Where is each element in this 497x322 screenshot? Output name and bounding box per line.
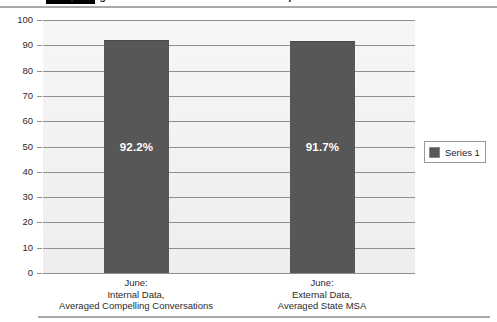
y-axis-tick-label: 80 xyxy=(5,66,33,76)
x-axis-category-line: External Data, xyxy=(229,289,415,301)
bar-value-label: 91.7% xyxy=(290,141,355,153)
y-axis-tick-mark xyxy=(37,20,42,21)
gridline xyxy=(43,248,415,249)
y-axis-tick-mark xyxy=(37,197,42,198)
y-axis-tick-mark xyxy=(37,273,42,274)
bar-value-label: 92.2% xyxy=(104,141,169,153)
x-axis-category-line: June: xyxy=(229,277,415,289)
plot-area: 92.2%91.7% xyxy=(43,20,415,273)
y-axis-tick-mark xyxy=(37,222,42,223)
gridline xyxy=(43,71,415,72)
y-axis-tick-mark xyxy=(37,147,42,148)
x-axis-category-line: June: xyxy=(43,277,229,289)
y-axis-tick-mark xyxy=(37,71,42,72)
gridline xyxy=(43,222,415,223)
y-axis-tick-mark xyxy=(37,45,42,46)
y-axis-tick-mark xyxy=(37,248,42,249)
x-axis-category-label: June:External Data,Averaged State MSA xyxy=(229,277,415,312)
gridline xyxy=(43,45,415,46)
gridline xyxy=(43,96,415,97)
y-axis-tick-label: 90 xyxy=(5,40,33,50)
legend-label-series-1: Series 1 xyxy=(445,147,480,158)
y-axis-tick-label: 100 xyxy=(5,15,33,25)
y-axis-tick-label: 30 xyxy=(5,192,33,202)
y-axis-tick-label: 60 xyxy=(5,116,33,126)
x-axis-category-line: Internal Data, xyxy=(43,289,229,301)
y-axis-tick-label: 20 xyxy=(5,217,33,227)
bar[interactable]: 91.7% xyxy=(290,41,355,273)
y-axis-tick-label: 70 xyxy=(5,91,33,101)
x-axis-category-line: Averaged State MSA xyxy=(229,300,415,312)
gridline xyxy=(43,147,415,148)
y-axis-tick-label: 0 xyxy=(5,268,33,278)
legend-swatch-series-1 xyxy=(429,147,440,158)
y-axis-tick-mark xyxy=(37,172,42,173)
chart-legend[interactable]: Series 1 xyxy=(424,141,486,163)
y-axis-tick-mark xyxy=(37,96,42,97)
gridline xyxy=(43,197,415,198)
clipped-title-text: Compelling Conversations vs. State MSA C… xyxy=(46,0,486,4)
gridline xyxy=(43,20,415,21)
y-axis-tick-label: 40 xyxy=(5,167,33,177)
x-axis-category-line: Averaged Compelling Conversations xyxy=(43,300,229,312)
bottom-divider-rule xyxy=(38,316,490,318)
y-axis-tick-label: 50 xyxy=(5,142,33,152)
y-axis-tick-mark xyxy=(37,121,42,122)
gridline xyxy=(43,172,415,173)
x-axis-category-label: June:Internal Data,Averaged Compelling C… xyxy=(43,277,229,312)
gridline xyxy=(43,121,415,122)
gridline xyxy=(43,273,415,274)
bar[interactable]: 92.2% xyxy=(104,40,169,273)
bar-chart: 92.2%91.7% 1009080706050403020100 June:I… xyxy=(0,8,497,308)
y-axis-tick-label: 10 xyxy=(5,243,33,253)
clipped-title-strip: Compelling Conversations vs. State MSA C… xyxy=(0,0,497,8)
